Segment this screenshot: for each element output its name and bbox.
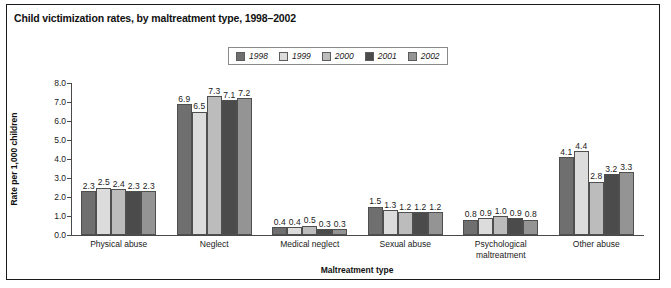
bar-value-label: 0.4 [274,218,286,227]
bar[interactable]: 0.4 [272,227,287,235]
bar[interactable]: 0.5 [302,226,317,236]
bar-slot: 0.3 [332,83,347,235]
legend-entry: 1999 [279,52,311,61]
bar-slot: 7.1 [222,83,237,235]
bar-slot: 3.2 [604,83,619,235]
bar-value-label: 0.3 [334,220,346,229]
bar-group: 0.80.91.00.90.8 [453,83,549,235]
bar[interactable]: 1.2 [398,212,413,235]
x-axis-category-label: Medical neglect [262,239,358,260]
y-axis-tick-mark [67,235,71,236]
bar-slot: 0.8 [523,83,538,235]
bar-value-label: 2.3 [143,182,155,191]
bar-slot: 3.3 [619,83,634,235]
bar[interactable]: 3.2 [604,174,619,235]
y-axis-tick-label: 3.0 [54,173,66,183]
bar-group: 2.32.52.42.32.3 [71,83,167,235]
bar-slot: 7.2 [237,83,252,235]
bar-slot: 7.3 [207,83,222,235]
bar-value-label: 0.5 [304,216,316,225]
y-axis-title: Rate per 1,000 children [9,112,19,205]
x-axis-category-label-line: Neglect [167,239,263,250]
chart-legend: 19981999200020012002 [228,47,448,65]
bar[interactable]: 1.2 [428,212,443,235]
bar-slot: 2.3 [126,83,141,235]
bar[interactable]: 7.1 [222,100,237,235]
bar-slot: 0.4 [272,83,287,235]
bar[interactable]: 1.0 [493,216,508,235]
bar-value-label: 6.9 [178,95,190,104]
bar[interactable]: 0.3 [332,229,347,235]
x-axis-category-labels: Physical abuseNeglectMedical neglectSexu… [71,239,644,260]
legend-swatch-icon [279,52,288,61]
bar-value-label: 2.3 [83,182,95,191]
bar[interactable]: 1.2 [413,212,428,235]
bar[interactable]: 6.5 [192,112,207,236]
bar[interactable]: 2.5 [96,188,111,236]
y-axis-tick-label: 7.0 [54,97,66,107]
bar[interactable]: 7.2 [237,98,252,235]
bar-value-label: 3.2 [605,165,617,174]
bar-value-label: 0.9 [510,209,522,218]
bar-slot: 4.4 [574,83,589,235]
bar[interactable]: 0.9 [478,218,493,235]
bar-value-label: 6.5 [193,102,205,111]
bar[interactable]: 0.3 [317,229,332,235]
bar[interactable]: 0.4 [287,227,302,235]
bar-slot: 1.2 [398,83,413,235]
legend-label: 2000 [335,52,354,61]
bar[interactable]: 2.3 [126,191,141,235]
bar[interactable]: 2.3 [141,191,156,235]
bar-slot: 2.8 [589,83,604,235]
bar-group: 4.14.42.83.23.3 [549,83,645,235]
bar-groups: 2.32.52.42.32.36.96.57.37.17.20.40.40.50… [71,83,644,235]
legend-label: 1998 [249,52,268,61]
bar-value-label: 1.5 [369,197,381,206]
bar[interactable]: 2.4 [111,189,126,235]
bar[interactable]: 0.8 [523,220,538,235]
legend-entry: 2002 [408,52,440,61]
bar[interactable]: 6.9 [177,104,192,235]
bar[interactable]: 3.3 [619,172,634,235]
bar-value-label: 0.8 [525,210,537,219]
bar-value-label: 2.3 [128,182,140,191]
chart-figure: Child victimization rates, by maltreatme… [0,0,671,288]
bar-slot: 0.4 [287,83,302,235]
bar[interactable]: 4.1 [559,157,574,235]
x-axis-category-label: Sexual abuse [358,239,454,260]
bar-slot: 1.5 [368,83,383,235]
x-axis-category-label-line: Physical abuse [71,239,167,250]
bar-group: 6.96.57.37.17.2 [167,83,263,235]
y-axis-tick-label: 5.0 [54,135,66,145]
y-axis-tick-label: 8.0 [54,78,66,88]
bar-slot: 4.1 [559,83,574,235]
bar-slot: 2.5 [96,83,111,235]
y-axis-tick-label: 0.0 [54,230,66,240]
x-axis-category-label: Psychologicalmaltreatment [453,239,549,260]
bar[interactable]: 2.8 [589,182,604,235]
legend-entry: 1998 [236,52,268,61]
x-axis-category-label-line: Sexual abuse [358,239,454,250]
bar-slot: 2.3 [81,83,96,235]
bar[interactable]: 1.3 [383,210,398,235]
chart-title: Child victimization rates, by maltreatme… [14,12,296,24]
bar-value-label: 1.2 [399,203,411,212]
bar[interactable]: 2.3 [81,191,96,235]
bar-slot: 0.9 [508,83,523,235]
bar[interactable]: 4.4 [574,151,589,235]
x-axis-category-label-line: Psychological [453,239,549,250]
bar-group: 1.51.31.21.21.2 [358,83,454,235]
bar[interactable]: 0.9 [508,218,523,235]
bar-slot: 6.5 [192,83,207,235]
bar-group: 0.40.40.50.30.3 [262,83,358,235]
legend-swatch-icon [236,52,245,61]
legend-entry: 2001 [365,52,397,61]
bar[interactable]: 0.8 [463,220,478,235]
bar-value-label: 7.1 [223,91,235,100]
x-axis-category-label: Neglect [167,239,263,260]
bar[interactable]: 7.3 [207,96,222,235]
legend-swatch-icon [365,52,374,61]
bar[interactable]: 1.5 [368,207,383,236]
x-axis-title: Maltreatment type [321,265,394,275]
x-axis-category-label-line: Other abuse [549,239,645,250]
